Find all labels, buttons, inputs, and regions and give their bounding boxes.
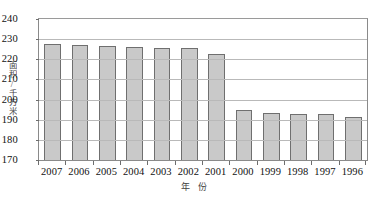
bar [126, 19, 142, 160]
bar-series [39, 19, 367, 160]
gridline [39, 120, 367, 121]
bar-rect [72, 45, 88, 160]
y-tick-label: 170 [0, 154, 18, 165]
x-tick-mark [339, 161, 340, 165]
y-tick-label: 220 [0, 53, 18, 64]
y-tick-label: 240 [0, 13, 18, 24]
bar-rect [345, 117, 361, 160]
gridline [39, 39, 367, 40]
x-tick-label: 2000 [232, 166, 253, 177]
bar-rect [126, 47, 142, 160]
x-tick-mark [175, 161, 176, 165]
bar [263, 19, 279, 160]
gridline [39, 59, 367, 60]
y-tick-label: 230 [0, 33, 18, 44]
x-axis-title: 年 份 [0, 180, 391, 193]
y-tick-label: 210 [0, 73, 18, 84]
bar [345, 19, 361, 160]
y-tick-mark [36, 59, 39, 60]
x-tick-mark [365, 161, 366, 165]
x-tick-label: 2004 [123, 166, 144, 177]
x-tick-mark [38, 161, 39, 165]
bar-chart: 面积/千方米 240230220210200190180170 20072006… [0, 0, 391, 199]
x-tick-label: 1999 [260, 166, 281, 177]
bar [181, 19, 197, 160]
gridline [39, 79, 367, 80]
bar [99, 19, 115, 160]
bar-rect [44, 44, 60, 160]
bar [236, 19, 252, 160]
x-tick-mark [202, 161, 203, 165]
y-tick-label: 180 [0, 133, 18, 144]
y-tick-label: 200 [0, 93, 18, 104]
x-tick-mark [229, 161, 230, 165]
y-tick-mark [36, 39, 39, 40]
x-tick-mark [257, 161, 258, 165]
gridline [39, 100, 367, 101]
x-tick-mark [147, 161, 148, 165]
y-tick-mark [36, 140, 39, 141]
gridline [39, 140, 367, 141]
bar-rect [181, 48, 197, 160]
bar [44, 19, 60, 160]
bar-rect [154, 48, 170, 160]
x-tick-label: 2005 [96, 166, 117, 177]
x-tick-label: 1996 [342, 166, 363, 177]
y-tick-label: 190 [0, 113, 18, 124]
x-tick-label: 1997 [314, 166, 335, 177]
x-tick-mark [120, 161, 121, 165]
x-tick-label: 2007 [41, 166, 62, 177]
plot-area [38, 18, 368, 161]
bar-rect [236, 110, 252, 160]
x-tick-label: 2001 [205, 166, 226, 177]
y-tick-mark [36, 19, 39, 20]
bar [290, 19, 306, 160]
bar-rect [99, 46, 115, 160]
x-tick-label: 2003 [150, 166, 171, 177]
bar [208, 19, 224, 160]
x-tick-mark [311, 161, 312, 165]
bar-rect [208, 54, 224, 160]
x-tick-label: 2002 [178, 166, 199, 177]
x-tick-mark [93, 161, 94, 165]
bar [72, 19, 88, 160]
x-tick-label: 1998 [287, 166, 308, 177]
x-tick-label: 2006 [68, 166, 89, 177]
y-tick-mark [36, 79, 39, 80]
bar [154, 19, 170, 160]
y-tick-mark [36, 120, 39, 121]
bar [318, 19, 334, 160]
x-tick-mark [284, 161, 285, 165]
y-tick-mark [36, 100, 39, 101]
x-tick-mark [65, 161, 66, 165]
